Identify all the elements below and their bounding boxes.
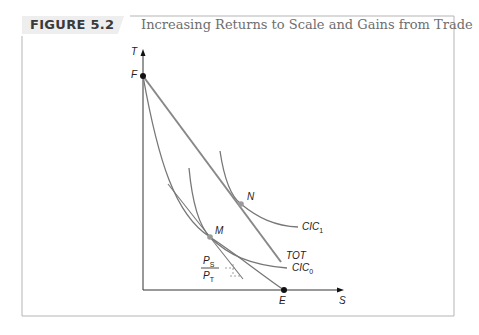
y-axis-arrow-icon	[141, 49, 146, 56]
cic1-curve	[220, 151, 298, 227]
cic0-curve	[189, 168, 287, 268]
label-M: M	[215, 225, 223, 236]
figure-title: Increasing Returns to Scale and Gains fr…	[141, 17, 473, 32]
point-F	[140, 73, 146, 79]
x-axis-arrow-icon	[337, 288, 344, 293]
label-E: E	[279, 295, 286, 306]
terms-of-trade-line	[143, 76, 281, 262]
figure-number: FIGURE 5.2	[30, 17, 114, 32]
price-ratio-denominator: PT	[203, 270, 214, 283]
label-cic1: CIC1	[302, 221, 323, 234]
label-tot: TOT	[286, 250, 306, 261]
x-axis-label: S	[339, 295, 346, 306]
label-N: N	[247, 191, 254, 202]
label-cic0: CIC0	[292, 262, 313, 275]
figure-canvas	[0, 0, 479, 335]
y-axis-label: T	[131, 46, 137, 57]
label-F: F	[131, 69, 137, 80]
point-N	[238, 201, 244, 207]
point-M	[207, 234, 213, 240]
price-ratio-numerator: PS	[203, 255, 214, 268]
point-E	[281, 287, 287, 293]
